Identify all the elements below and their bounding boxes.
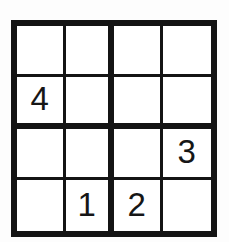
sudoku-cell-r1c4[interactable] [163, 26, 212, 77]
cell-digit: 3 [178, 135, 196, 168]
sudoku-cell-r3c2[interactable] [66, 129, 115, 180]
cell-digit: 1 [78, 188, 96, 221]
sudoku-cell-r1c1[interactable] [17, 26, 66, 77]
sudoku-cell-r2c2[interactable] [66, 77, 115, 128]
sudoku-grid: 4 3 1 2 [11, 20, 217, 237]
sudoku-cell-r2c3[interactable] [114, 77, 163, 128]
cell-digit: 4 [31, 82, 49, 115]
sudoku-cell-r3c4[interactable]: 3 [163, 129, 212, 180]
sudoku-cell-r2c4[interactable] [163, 77, 212, 128]
sudoku-cell-r4c3[interactable]: 2 [114, 180, 163, 231]
sudoku-cell-r1c2[interactable] [66, 26, 115, 77]
sudoku-cell-r4c2[interactable]: 1 [66, 180, 115, 231]
sudoku-puzzle-root: 4 3 1 2 [0, 0, 229, 242]
sudoku-cell-r2c1[interactable]: 4 [17, 77, 66, 128]
sudoku-cell-r3c3[interactable] [114, 129, 163, 180]
sudoku-cell-r4c1[interactable] [17, 180, 66, 231]
cell-digit: 2 [128, 188, 146, 221]
sudoku-cell-r4c4[interactable] [163, 180, 212, 231]
sudoku-cell-r1c3[interactable] [114, 26, 163, 77]
sudoku-cell-r3c1[interactable] [17, 129, 66, 180]
